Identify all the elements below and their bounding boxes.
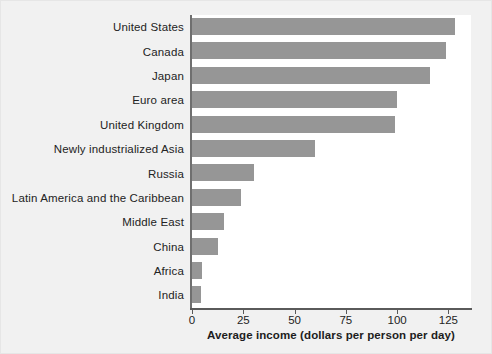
category-label: Africa: [154, 265, 184, 277]
bar-row: [192, 283, 471, 307]
bar: [192, 140, 315, 157]
bar: [192, 18, 455, 35]
bar-row: [192, 235, 471, 259]
bar-row: [192, 259, 471, 283]
category-label: United Kingdom: [100, 119, 184, 131]
x-tick-label: 0: [189, 314, 195, 326]
category-label-row: United Kingdom: [1, 113, 184, 137]
bar-row: [192, 161, 471, 185]
category-label: Japan: [152, 70, 184, 82]
bar-row: [192, 15, 471, 39]
category-label-row: Russia: [1, 161, 184, 185]
category-label: Middle East: [122, 216, 184, 228]
bar: [192, 262, 202, 279]
category-label-row: Newly industrialized Asia: [1, 137, 184, 161]
category-label-row: Canada: [1, 39, 184, 63]
category-label: United States: [113, 21, 184, 33]
bar-row: [192, 39, 471, 63]
bars-layer: [192, 15, 471, 308]
x-tick-label: 75: [339, 314, 352, 326]
bar-row: [192, 186, 471, 210]
x-tick-label: 50: [288, 314, 301, 326]
x-axis-tick-labels: 0255075100125: [190, 314, 472, 330]
category-label: Russia: [148, 168, 184, 180]
x-tick-label: 125: [439, 314, 458, 326]
bar: [192, 67, 430, 84]
bar: [192, 116, 395, 133]
category-label: India: [158, 289, 184, 301]
bar: [192, 164, 254, 181]
bar: [192, 189, 241, 206]
category-label: China: [153, 241, 184, 253]
category-label-row: India: [1, 283, 184, 307]
bar-row: [192, 88, 471, 112]
x-tick-label: 25: [237, 314, 250, 326]
category-label-row: United States: [1, 15, 184, 39]
category-label: Euro area: [132, 94, 184, 106]
bar: [192, 238, 218, 255]
category-label-row: Latin America and the Caribbean: [1, 186, 184, 210]
bar: [192, 42, 446, 59]
bar: [192, 213, 224, 230]
bar-chart-figure: United StatesCanadaJapanEuro areaUnited …: [0, 0, 492, 354]
bar: [192, 91, 397, 108]
category-label: Newly industrialized Asia: [54, 143, 184, 155]
x-tick-label: 100: [388, 314, 407, 326]
bar: [192, 286, 201, 303]
x-axis-title: Average income (dollars per person per d…: [190, 329, 472, 341]
category-label-row: Middle East: [1, 210, 184, 234]
category-label-row: Japan: [1, 64, 184, 88]
bar-row: [192, 137, 471, 161]
bar-row: [192, 210, 471, 234]
category-label-row: Africa: [1, 259, 184, 283]
category-label: Latin America and the Caribbean: [12, 192, 184, 204]
category-label-row: Euro area: [1, 88, 184, 112]
category-label-row: China: [1, 235, 184, 259]
bar-row: [192, 64, 471, 88]
category-label: Canada: [143, 46, 184, 58]
bar-row: [192, 113, 471, 137]
category-axis-labels: United StatesCanadaJapanEuro areaUnited …: [1, 15, 184, 308]
